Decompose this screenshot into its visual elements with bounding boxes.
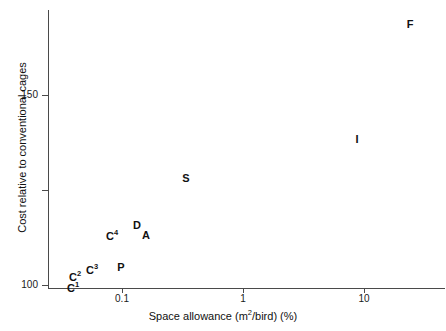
y-axis-tick xyxy=(42,190,48,191)
data-point-label-text: C xyxy=(67,282,75,294)
data-point-label-f: F xyxy=(407,19,414,30)
data-point-label-text: S xyxy=(182,172,189,184)
data-point-label-text: A xyxy=(142,229,150,241)
y-axis-tick-label: 100 xyxy=(14,280,38,290)
data-point-label-text: F xyxy=(407,18,414,30)
data-point-label-c1: C1 xyxy=(67,283,79,294)
data-point-label-text: C xyxy=(69,271,77,283)
data-point-label-superscript: 3 xyxy=(94,262,98,271)
scatter-plot-figure: 100150 0.1110 C1C2C3PC4DASIF Space allow… xyxy=(0,0,446,331)
data-point-label-text: I xyxy=(355,133,358,145)
x-axis-tick-label: 10 xyxy=(358,294,369,304)
x-axis-tick-label: 0.1 xyxy=(115,294,129,304)
data-point-label-c3: C3 xyxy=(86,265,98,276)
x-axis-title-prefix: Space allowance (m xyxy=(149,310,248,322)
data-point-label-p: P xyxy=(117,262,124,273)
y-axis-tick xyxy=(42,285,48,286)
data-point-label-c4: C4 xyxy=(106,231,118,242)
y-axis-title: Cost relative to conventional cages xyxy=(17,38,28,258)
data-point-label-s: S xyxy=(182,173,189,184)
x-axis-title: Space allowance (m2/bird) (%) xyxy=(0,311,446,322)
data-point-label-i: I xyxy=(355,134,358,145)
y-axis-line xyxy=(48,10,49,288)
data-point-label-superscript: 4 xyxy=(114,228,118,237)
data-point-label-text: C xyxy=(86,264,94,276)
data-point-label-text: D xyxy=(133,219,141,231)
data-point-label-text: P xyxy=(117,261,124,273)
x-axis-line xyxy=(48,288,445,289)
data-point-label-a: A xyxy=(142,230,150,241)
x-axis-tick-label: 1 xyxy=(240,294,246,304)
data-point-label-d: D xyxy=(133,220,141,231)
data-point-label-c2: C2 xyxy=(69,272,81,283)
x-axis-title-suffix: /bird) (%) xyxy=(252,310,297,322)
data-point-label-superscript: 2 xyxy=(77,269,81,278)
y-axis-tick xyxy=(42,95,48,96)
data-point-label-text: C xyxy=(106,230,114,242)
